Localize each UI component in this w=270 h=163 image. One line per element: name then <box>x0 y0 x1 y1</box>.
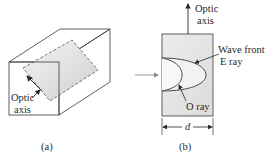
optic-axis-label-a-line2: axis <box>14 104 31 115</box>
optic-axis-label-b-line1: Optic <box>195 3 219 14</box>
optic-axis-label-b-line2: axis <box>197 15 214 26</box>
wavefront-label-line1: Wave front <box>218 44 265 55</box>
caption-b: (b) <box>179 141 192 153</box>
thickness-label: d <box>185 121 191 132</box>
o-ray-label: O ray <box>186 101 210 112</box>
e-ray-label: E ray <box>220 56 243 67</box>
caption-a: (a) <box>41 141 53 153</box>
optic-axis-label-a-line1: Optic <box>11 92 35 103</box>
figure: Optic axis (a) Optic axis Wave front E r… <box>0 0 270 163</box>
